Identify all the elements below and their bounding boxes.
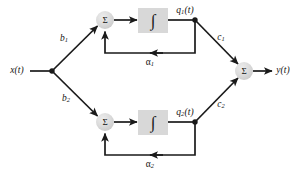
- feedback-alpha2-label: α2: [146, 160, 154, 170]
- edge-branch-to-summer-top: [52, 26, 98, 71]
- summer-bottom-sigma: Σ: [102, 118, 107, 127]
- gain-c1-subscript: 1: [221, 35, 224, 42]
- output-label: y(t): [276, 66, 290, 76]
- gain-b2-label: b2: [62, 94, 70, 104]
- integrator-bottom-symbol: ∫: [151, 114, 156, 131]
- summer-top-sigma: Σ: [102, 16, 107, 25]
- state-q2-label: q2(t): [176, 108, 194, 118]
- state-q1-label: q1(t): [176, 6, 194, 16]
- gain-b1-label: b1: [60, 34, 68, 44]
- input-label: x(t): [10, 66, 24, 76]
- gain-c2-label: c2: [217, 100, 225, 110]
- feedback-alpha1-label: α1: [146, 58, 154, 68]
- feedback-alpha1-subscript: 1: [151, 60, 154, 67]
- state-q2-argument: (t): [184, 107, 193, 117]
- gain-b2-subscript: 2: [67, 96, 70, 103]
- edge-branch-to-summer-bottom: [52, 71, 98, 116]
- integrator-top-symbol: ∫: [151, 12, 156, 29]
- gain-c2-subscript: 2: [221, 102, 224, 109]
- gain-c1-label: c1: [217, 33, 225, 43]
- summer-output-sigma: Σ: [241, 67, 246, 76]
- signal-flow-diagram: Σ Σ Σ ∫ ∫ x(t) y(t) b1 b2 c1 c2 α1 α2 q1…: [0, 0, 304, 179]
- feedback-alpha2-subscript: 2: [151, 162, 154, 169]
- gain-b1-subscript: 1: [65, 36, 68, 43]
- state-q1-argument: (t): [184, 5, 193, 15]
